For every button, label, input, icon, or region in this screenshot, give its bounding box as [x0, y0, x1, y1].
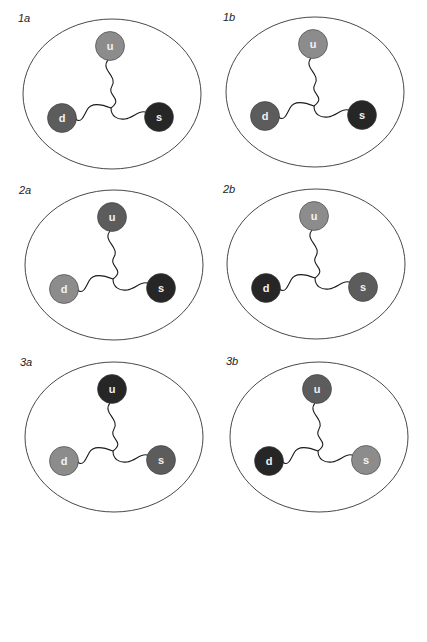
- quark-s: s: [145, 103, 174, 132]
- quark-d: d: [50, 275, 79, 304]
- quark-label: u: [314, 383, 321, 395]
- panel-label: 3b: [226, 355, 238, 367]
- quark-label: u: [109, 211, 116, 223]
- quark-label: u: [310, 38, 317, 50]
- quark-label: d: [59, 112, 66, 124]
- gluon-lines: [77, 231, 158, 292]
- gluon-lines: [279, 230, 360, 291]
- quark-s: s: [349, 273, 378, 302]
- baryon-panel-3b: uds: [229, 361, 409, 513]
- quark-u: u: [300, 202, 329, 231]
- baryon-panel-1b: uds: [225, 16, 405, 168]
- quark-d: d: [48, 104, 77, 133]
- quark-s: s: [352, 446, 381, 475]
- panel-label: 1a: [18, 12, 30, 24]
- baryon-panel-1a: uds: [22, 18, 202, 170]
- baryon-panel-2b: uds: [226, 188, 406, 340]
- baryon-panel-3a: uds: [24, 361, 204, 513]
- gluon-lines: [278, 58, 359, 119]
- quark-s: s: [348, 101, 377, 130]
- quark-label: u: [109, 383, 116, 395]
- panel-label: 2a: [19, 184, 31, 196]
- quark-label: s: [359, 109, 365, 121]
- gluon-lines: [75, 60, 156, 121]
- quark-label: u: [311, 210, 318, 222]
- quark-d: d: [251, 102, 280, 131]
- quark-label: s: [360, 281, 366, 293]
- quark-d: d: [50, 447, 79, 476]
- baryon-panel-2a: uds: [24, 189, 204, 341]
- quark-u: u: [98, 203, 127, 232]
- quark-label: s: [158, 454, 164, 466]
- quark-s: s: [147, 446, 176, 475]
- panel-label: 2b: [223, 183, 235, 195]
- quark-label: d: [262, 110, 269, 122]
- quark-u: u: [303, 375, 332, 404]
- quark-label: d: [61, 455, 68, 467]
- quark-label: s: [156, 111, 162, 123]
- quark-label: d: [263, 282, 270, 294]
- quark-label: s: [158, 282, 164, 294]
- quark-label: s: [363, 454, 369, 466]
- quark-label: d: [266, 455, 273, 467]
- quark-d: d: [255, 447, 284, 476]
- panel-label: 3a: [20, 356, 32, 368]
- quark-u: u: [96, 32, 125, 61]
- panel-label: 1b: [223, 11, 235, 23]
- quark-d: d: [252, 274, 281, 303]
- quark-label: u: [107, 40, 114, 52]
- quark-u: u: [98, 375, 127, 404]
- quark-u: u: [299, 30, 328, 59]
- quark-s: s: [147, 274, 176, 303]
- gluon-lines: [77, 403, 158, 464]
- gluon-lines: [282, 403, 363, 464]
- quark-label: d: [61, 283, 68, 295]
